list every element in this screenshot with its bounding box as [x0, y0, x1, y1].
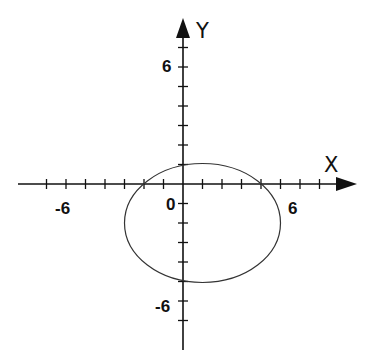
y-axis-label: Y	[195, 19, 209, 43]
x-axis-label: X	[324, 153, 338, 177]
coordinate-plot: Y X 0 -6 6 6 -6	[0, 0, 369, 362]
x-axis-arrow-icon	[336, 177, 357, 191]
y-tick-label-neg6: -6	[155, 297, 170, 316]
origin-label: 0	[166, 195, 175, 214]
y-tick-label-6: 6	[162, 57, 171, 76]
y-axis-arrow-icon	[176, 18, 190, 38]
x-tick-label-6: 6	[288, 199, 297, 218]
x-tick-label-neg6: -6	[55, 199, 70, 218]
